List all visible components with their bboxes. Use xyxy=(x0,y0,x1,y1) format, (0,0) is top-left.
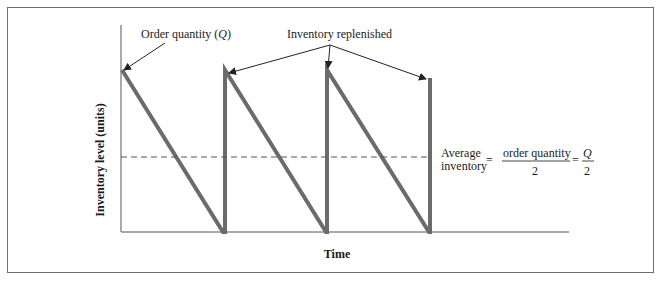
eoq-figure: Order quantity (Q) Inventory replenished… xyxy=(0,0,661,286)
inventory-sawtooth-line xyxy=(122,70,430,232)
average-label-line1: Average xyxy=(441,146,481,160)
fraction-denominator: 2 xyxy=(532,164,538,178)
order-quantity-arrow xyxy=(124,43,165,70)
replenish-arrow-1 xyxy=(229,45,330,73)
average-label-line2: inventory xyxy=(441,159,487,173)
fraction-numerator: order quantity xyxy=(503,146,571,160)
equals-sign-2: = xyxy=(572,153,579,167)
y-axis-title: Inventory level (units) xyxy=(93,103,107,216)
q-denominator: 2 xyxy=(584,164,590,178)
x-axis-title: Time xyxy=(324,247,351,261)
order-quantity-label: Order quantity (Q) xyxy=(141,27,231,41)
replenish-arrow-3 xyxy=(330,45,426,79)
replenish-arrow-2 xyxy=(328,45,330,68)
sawtooth-chart: Order quantity (Q) Inventory replenished… xyxy=(0,0,661,286)
q-numerator: Q xyxy=(583,146,592,160)
equals-sign-1: = xyxy=(486,153,493,167)
inventory-replenished-label: Inventory replenished xyxy=(287,27,392,41)
